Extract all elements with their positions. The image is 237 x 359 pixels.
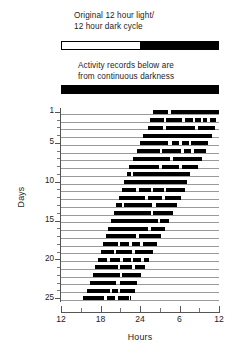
activity-bout bbox=[135, 250, 153, 254]
activity-bout bbox=[210, 118, 217, 122]
activity-bout bbox=[144, 258, 149, 262]
x-axis-title: Hours bbox=[61, 332, 219, 342]
actogram-day-row bbox=[61, 186, 219, 194]
activity-bout bbox=[173, 157, 202, 161]
light-dark-bar-segment-light bbox=[62, 42, 140, 49]
activity-bout bbox=[98, 258, 107, 262]
y-axis-tick-minor bbox=[57, 189, 60, 190]
actogram-day-row bbox=[61, 201, 219, 209]
constant-darkness-bar-segment-dark bbox=[62, 86, 218, 93]
activity-bout bbox=[182, 141, 189, 145]
activity-bout bbox=[118, 296, 130, 300]
x-axis-tick-major bbox=[61, 306, 62, 312]
activity-bout bbox=[166, 126, 194, 130]
x-axis-tick-minor bbox=[81, 308, 82, 312]
activity-bout bbox=[110, 258, 121, 262]
activity-bout bbox=[120, 289, 134, 293]
actogram-day-row bbox=[61, 193, 219, 201]
activity-bout bbox=[185, 118, 193, 122]
x-axis-tick-minor bbox=[160, 308, 161, 312]
y-axis-tick-major bbox=[55, 259, 60, 260]
y-axis-tick-label-text: 1 bbox=[32, 107, 54, 115]
day-baseline bbox=[61, 129, 219, 130]
actogram-day-row bbox=[61, 155, 219, 163]
activity-bout bbox=[93, 273, 120, 277]
actogram-day-row bbox=[61, 147, 219, 155]
actogram-day-row bbox=[61, 131, 219, 139]
activity-bout bbox=[171, 110, 219, 114]
actogram-day-row bbox=[61, 279, 219, 287]
y-axis-tick-minor bbox=[57, 290, 60, 291]
x-axis-line bbox=[61, 312, 220, 313]
actogram-day-row bbox=[61, 294, 219, 302]
x-axis-tick-label: 6 bbox=[177, 315, 182, 324]
actogram-day-row bbox=[61, 248, 219, 256]
day-baseline bbox=[61, 284, 219, 285]
activity-bout bbox=[119, 196, 145, 200]
y-axis-tick-minor bbox=[57, 275, 60, 276]
activity-bout bbox=[165, 196, 181, 200]
y-axis-tick-major bbox=[55, 112, 60, 113]
activity-bout bbox=[120, 281, 138, 285]
caption-constant-darkness: Activity records below are from continuo… bbox=[78, 61, 228, 82]
actogram-day-row bbox=[61, 240, 219, 248]
y-axis-tick-label-text: 25 bbox=[32, 294, 54, 302]
activity-bout bbox=[148, 126, 163, 130]
activity-bout bbox=[184, 149, 191, 153]
activity-bout bbox=[83, 296, 104, 300]
activity-bout bbox=[148, 196, 162, 200]
activity-bout bbox=[203, 118, 207, 122]
actogram-day-row bbox=[61, 139, 219, 147]
y-axis-tick-minor bbox=[57, 283, 60, 284]
y-axis-tick-minor bbox=[57, 228, 60, 229]
activity-bout bbox=[198, 126, 215, 130]
actogram-day-row bbox=[61, 209, 219, 217]
actogram-day-row bbox=[61, 255, 219, 263]
y-axis-tick-label-text: 5 bbox=[32, 138, 54, 146]
y-axis-tick-minor bbox=[57, 197, 60, 198]
activity-bout bbox=[116, 250, 132, 254]
actogram-day-row bbox=[61, 170, 219, 178]
y-axis-tick-minor bbox=[57, 135, 60, 136]
x-axis-tick-minor bbox=[199, 308, 200, 312]
y-axis-tick-minor bbox=[57, 205, 60, 206]
actogram-day-row bbox=[61, 286, 219, 294]
activity-bout bbox=[127, 172, 131, 176]
x-axis-tick-major bbox=[140, 306, 141, 312]
x-axis-tick-minor bbox=[120, 308, 121, 312]
activity-bout bbox=[133, 172, 190, 176]
x-axis-tick-major bbox=[180, 306, 181, 312]
y-axis-tick-minor bbox=[57, 166, 60, 167]
activity-bout bbox=[135, 265, 146, 269]
constant-darkness-reference-bar bbox=[61, 85, 219, 94]
x-axis-tick-major bbox=[219, 306, 220, 312]
activity-bout bbox=[195, 118, 200, 122]
activity-bout bbox=[182, 165, 198, 169]
actogram-day-row bbox=[61, 217, 219, 225]
y-axis-tick-label-text: 20 bbox=[32, 255, 54, 263]
caption-light-dark-cycle: Original 12 hour light/ 12 hour dark cyc… bbox=[74, 11, 224, 32]
y-axis-tick-minor bbox=[57, 252, 60, 253]
activity-bout bbox=[124, 180, 187, 184]
activity-bout bbox=[129, 165, 159, 169]
activity-bout bbox=[108, 227, 148, 231]
y-axis-title: Days bbox=[16, 167, 26, 227]
activity-bout bbox=[132, 242, 140, 246]
x-axis-tick-label: 18 bbox=[96, 315, 106, 324]
y-axis-tick-minor bbox=[57, 267, 60, 268]
x-axis-tick-major bbox=[101, 306, 102, 312]
activity-bout bbox=[120, 242, 129, 246]
activity-bout bbox=[112, 289, 117, 293]
y-axis-tick-major bbox=[55, 143, 60, 144]
activity-bout bbox=[114, 211, 151, 215]
activity-bout bbox=[151, 227, 165, 231]
actogram-day-row bbox=[61, 232, 219, 240]
activity-bout bbox=[123, 258, 131, 262]
activity-bout bbox=[95, 265, 117, 269]
y-axis-tick-minor bbox=[57, 244, 60, 245]
activity-bout bbox=[133, 157, 170, 161]
actogram-day-row bbox=[61, 224, 219, 232]
y-axis-tick-label-text: 10 bbox=[32, 177, 54, 185]
actogram-day-row bbox=[61, 124, 219, 132]
activity-bout bbox=[162, 149, 181, 153]
